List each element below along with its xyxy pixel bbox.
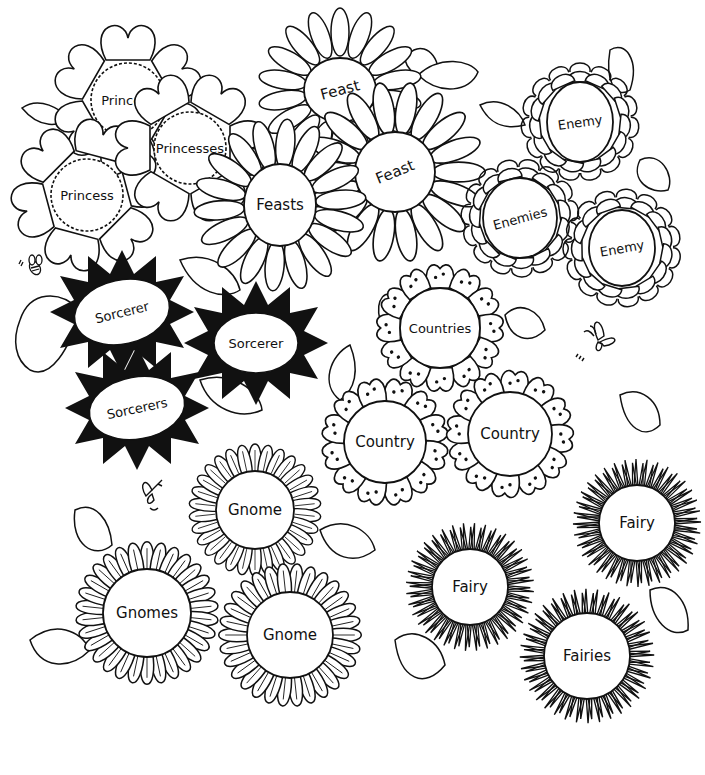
flower-label: Fairy bbox=[452, 578, 488, 596]
flower-fairy-2[interactable]: Fairy bbox=[406, 523, 535, 652]
flower-label: Countries bbox=[409, 321, 472, 336]
worksheet-footer: 28 Name: Date: bbox=[0, 745, 705, 775]
flower-label: Country bbox=[480, 425, 540, 443]
flower-gnomes[interactable]: Gnomes bbox=[75, 542, 218, 685]
flower-label: Country bbox=[355, 433, 415, 451]
flower-label: Gnome bbox=[228, 501, 282, 519]
flower-gnome-1[interactable]: Gnome bbox=[189, 444, 322, 576]
flower-label: Sorcerer bbox=[229, 336, 284, 351]
flower-enemy-2[interactable]: Enemy bbox=[563, 188, 682, 308]
flower-gnome-2[interactable]: Gnome bbox=[219, 563, 362, 706]
flower-country-2[interactable]: Country bbox=[446, 370, 574, 498]
butterfly-icon bbox=[143, 480, 162, 510]
flower-sorcerers[interactable]: Sorcerers bbox=[65, 346, 209, 470]
flower-fairies[interactable]: Fairies bbox=[520, 589, 655, 724]
flower-label: Fairies bbox=[563, 647, 611, 665]
flower-countries[interactable]: Countries bbox=[377, 265, 503, 391]
flower-label: Gnomes bbox=[116, 604, 178, 622]
flower-label: Feasts bbox=[256, 196, 304, 214]
butterfly-icon bbox=[576, 322, 615, 361]
flower-sorcerer-1[interactable]: Sorcerer bbox=[50, 250, 194, 374]
flower-label: Gnome bbox=[263, 626, 317, 644]
coloring-page-art: Princess Princess Princesses bbox=[0, 0, 705, 745]
flower-label: Princess bbox=[60, 188, 114, 203]
flower-fairy-1[interactable]: Fairy bbox=[573, 459, 701, 587]
bee-icon bbox=[19, 255, 43, 277]
flower-label: Fairy bbox=[619, 514, 655, 532]
